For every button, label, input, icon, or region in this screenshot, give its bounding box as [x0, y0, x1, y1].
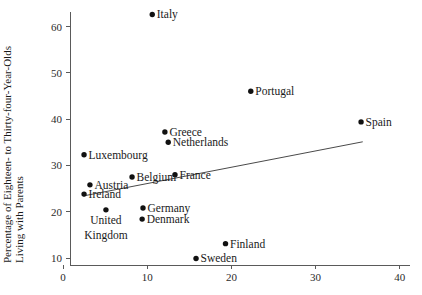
y-axis-title-line-2: Living with Parents — [13, 176, 25, 263]
point-label-italy: Italy — [157, 8, 178, 21]
plot-area: 102030405060010203040ItalyPortugalSpainG… — [0, 0, 422, 295]
data-point-germany[interactable] — [140, 205, 145, 210]
data-point-portugal[interactable] — [248, 89, 253, 94]
data-point-spain[interactable] — [358, 119, 363, 124]
y-tick-label: 60 — [51, 21, 63, 33]
data-point-italy[interactable] — [150, 12, 155, 17]
point-label-belgium: Belgium — [137, 171, 177, 184]
data-point-denmark[interactable] — [139, 216, 144, 221]
data-point-ireland[interactable] — [81, 191, 86, 196]
data-point-finland[interactable] — [223, 241, 228, 246]
x-tick-label: 10 — [142, 271, 154, 283]
point-label-portugal: Portugal — [255, 85, 294, 98]
point-label-france: France — [179, 169, 210, 181]
x-tick-label: 40 — [394, 271, 406, 283]
y-tick-label: 30 — [51, 159, 63, 171]
data-point-sweden[interactable] — [193, 256, 198, 261]
data-point-greece[interactable] — [162, 129, 167, 134]
point-label-netherlands: Netherlands — [173, 136, 229, 148]
y-tick-label: 40 — [51, 113, 63, 125]
point-label-finland: Finland — [230, 238, 265, 250]
data-point-netherlands[interactable] — [166, 140, 171, 145]
data-point-luxembourg[interactable] — [81, 152, 86, 157]
y-axis-title-line-1: Percentage of Eighteen- to Thirty-four-Y… — [1, 46, 13, 263]
x-tick-label: 30 — [310, 271, 322, 283]
point-label-ireland: Ireland — [89, 188, 122, 200]
point-label-spain: Spain — [366, 116, 392, 129]
data-point-austria[interactable] — [87, 182, 92, 187]
data-point-belgium[interactable] — [129, 174, 134, 179]
x-tick-label: 0 — [60, 271, 66, 283]
point-label-united-kingdom: United — [90, 214, 122, 226]
y-axis-title: Percentage of Eighteen- to Thirty-four-Y… — [1, 46, 25, 263]
point-label-sweden: Sweden — [201, 252, 238, 264]
scatter-chart-figure: 102030405060010203040ItalyPortugalSpainG… — [0, 0, 422, 295]
y-tick-label: 20 — [51, 206, 63, 218]
y-tick-label: 50 — [51, 67, 63, 79]
point-label-united-kingdom: Kingdom — [84, 229, 128, 242]
data-point-united-kingdom[interactable] — [103, 207, 108, 212]
point-label-luxembourg: Luxembourg — [89, 149, 148, 162]
y-tick-label: 10 — [51, 252, 63, 264]
x-tick-label: 20 — [226, 271, 238, 283]
point-label-denmark: Denmark — [147, 213, 190, 225]
